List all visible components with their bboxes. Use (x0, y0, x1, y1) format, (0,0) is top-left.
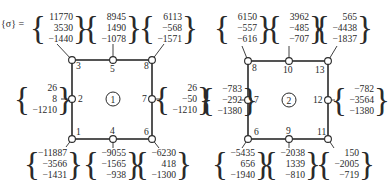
stress-component: −6230 (151, 147, 176, 158)
node-11: 11{150−2005−719} (316, 126, 375, 182)
node-label: 7 (142, 93, 147, 104)
node-8: 8{6150−557−616} (214, 10, 273, 73)
stress-vector: {117703530−1440} (30, 10, 89, 46)
node-9: 9{−20381339−810} (262, 125, 321, 182)
left-brace: { (199, 82, 215, 118)
node-8: 8{6113−568−1571} (139, 10, 198, 71)
stress-diagram: {σ} = 11{−11887−3566−1431}2{268−1210}3{1… (0, 0, 392, 192)
left-brace: { (212, 146, 228, 182)
element-2: 26{−5435656−1940}7{−783−292−1380}8{6150−… (199, 10, 390, 182)
left-brace: { (83, 10, 99, 46)
node-label: 13 (315, 64, 325, 75)
node-marker (69, 57, 76, 64)
node-1: 1{−11887−3566−1431} (24, 126, 83, 182)
stress-component: 656 (241, 158, 256, 169)
stress-vector: {−20381339−810} (262, 146, 321, 182)
node-label: 4 (110, 125, 115, 136)
stress-component: 8945 (107, 11, 126, 22)
stress-component: 6113 (163, 11, 182, 22)
stress-vector: {−6230418−1300} (133, 146, 192, 182)
stress-component: 26 (47, 82, 57, 93)
stress-vector: {6150−557−616} (214, 10, 273, 46)
stress-component: −3566 (42, 158, 67, 169)
node-label: 8 (252, 62, 257, 73)
right-brace: } (357, 10, 373, 46)
stress-component: −707 (289, 33, 309, 44)
stress-component: −1940 (230, 169, 255, 180)
node-label: 5 (110, 63, 115, 74)
stress-vector: {−11887−3566−1431} (24, 146, 83, 182)
stress-component: −1571 (157, 33, 182, 44)
node-label: 12 (313, 94, 323, 105)
node-marker (286, 136, 293, 143)
stress-component: −616 (237, 33, 257, 44)
right-brace: } (67, 146, 83, 182)
stress-component: 11770 (49, 11, 73, 22)
stress-component: 1339 (286, 158, 305, 169)
stress-component: 3962 (290, 11, 309, 22)
left-brace: { (316, 146, 332, 182)
stress-vector: {6113−568−1571} (139, 10, 198, 46)
left-brace: { (331, 82, 347, 118)
stress-component: −1837 (332, 33, 357, 44)
node-12: 12{−782−3564−1380} (313, 82, 390, 118)
node-label: 1 (76, 126, 81, 137)
node-marker (149, 57, 156, 64)
stress-component: −783 (222, 83, 242, 94)
stress-component: −568 (162, 22, 182, 33)
node-label: 2 (78, 93, 83, 104)
stress-component: 1490 (107, 22, 126, 33)
node-13: 13{565−4438−1837} (314, 10, 373, 75)
stress-component: −2038 (280, 147, 305, 158)
stress-component: −1210 (172, 104, 197, 115)
left-brace: { (314, 10, 330, 46)
stress-vector: {−782−3564−1380} (331, 82, 390, 118)
stress-component: −1380 (217, 105, 242, 116)
stress-component: −292 (222, 94, 242, 105)
node-2: 2{268−1210} (14, 81, 83, 117)
stress-vector: {−783−292−1380} (199, 82, 258, 118)
stress-component: 6150 (238, 11, 257, 22)
node-marker (69, 136, 76, 143)
right-brace: } (182, 10, 198, 46)
stress-component: −3564 (349, 94, 374, 105)
stress-component: −1078 (101, 33, 126, 44)
node-6: 6{−6230418−1300} (133, 126, 192, 182)
stress-vector: {565−4438−1837} (314, 10, 373, 46)
left-brace: { (154, 81, 170, 117)
element-1: 11{−11887−3566−1431}2{268−1210}3{1177035… (14, 10, 213, 182)
right-brace: } (57, 81, 73, 117)
stress-component: −938 (106, 169, 126, 180)
node-label: 8 (144, 60, 149, 71)
stress-component: −1565 (101, 158, 126, 169)
left-brace: { (262, 146, 278, 182)
elements-layer: 11{−11887−3566−1431}2{268−1210}3{1177035… (14, 10, 390, 182)
stress-component: 565 (343, 11, 358, 22)
stress-component: −485 (289, 22, 309, 33)
left-brace: { (139, 10, 155, 46)
node-label: 11 (317, 126, 326, 137)
left-brace: { (266, 10, 282, 46)
node-marker (245, 58, 252, 65)
stress-component: −1440 (48, 33, 73, 44)
element-number: 2 (287, 95, 292, 106)
node-marker (245, 136, 252, 143)
node-label: 3 (76, 60, 81, 71)
node-7: 7{−783−292−1380} (199, 82, 259, 118)
stress-component: 26 (187, 82, 197, 93)
node-label: 6 (144, 126, 149, 137)
right-brace: } (176, 146, 192, 182)
stress-component: −5435 (230, 147, 255, 158)
left-brace: { (83, 146, 99, 182)
stress-component: −11887 (38, 147, 67, 158)
node-3: 3{117703530−1440} (30, 10, 89, 71)
stress-component: −557 (237, 22, 257, 33)
node-label: 6 (254, 126, 259, 137)
stress-component: −9055 (101, 147, 126, 158)
node-marker (110, 136, 117, 143)
node-5: 5{89451490−1078} (83, 10, 142, 74)
left-brace: { (133, 146, 149, 182)
stress-component: −810 (285, 169, 305, 180)
left-brace: { (214, 10, 230, 46)
stress-vector: {89451490−1078} (83, 10, 142, 46)
